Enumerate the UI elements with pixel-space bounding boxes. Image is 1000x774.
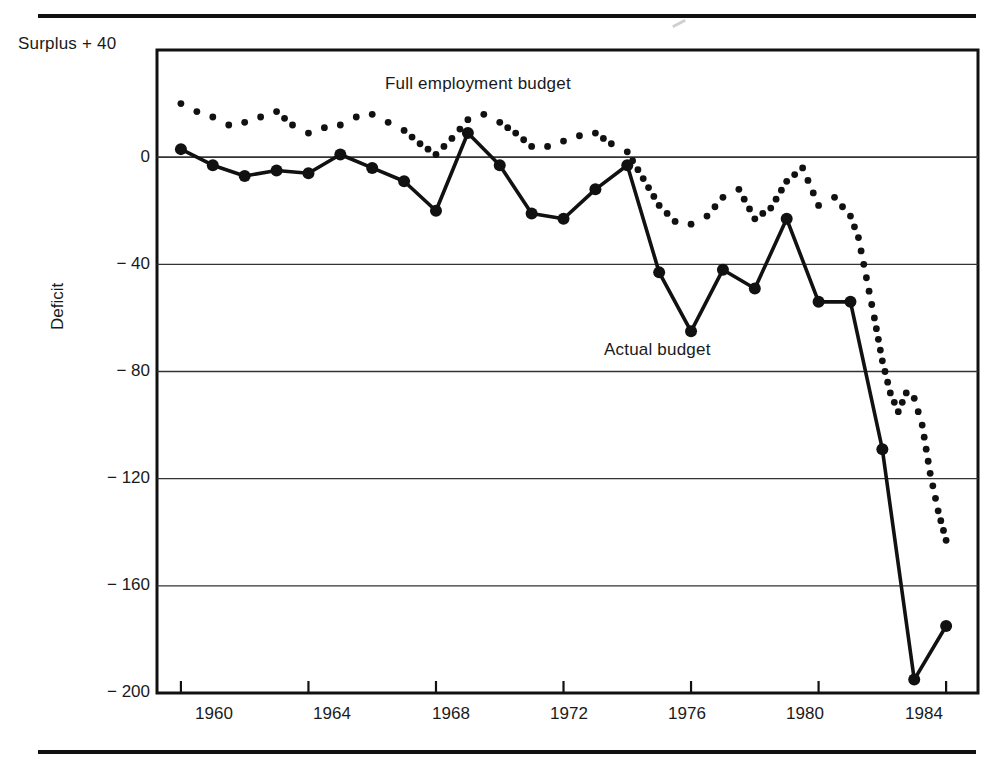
data-dot — [875, 336, 882, 343]
data-dot — [911, 395, 918, 402]
data-dot — [600, 135, 607, 142]
data-dot — [921, 434, 928, 441]
data-dot — [608, 140, 615, 147]
data-point-marker — [207, 159, 219, 171]
data-dot — [935, 507, 942, 514]
data-dot — [281, 115, 288, 122]
data-dot — [337, 122, 344, 129]
series-actual-budget-markers — [175, 127, 952, 686]
data-dot — [783, 178, 790, 185]
data-dot — [640, 175, 647, 182]
data-dot — [915, 408, 922, 415]
data-dot — [464, 116, 471, 123]
data-point-marker — [685, 325, 697, 337]
data-dot — [873, 325, 880, 332]
data-dot — [353, 114, 360, 121]
data-dot — [791, 171, 798, 178]
data-dot — [480, 111, 487, 118]
data-dot — [847, 213, 854, 220]
x-tick-marks — [181, 681, 946, 693]
data-dot — [504, 124, 511, 131]
data-dot — [810, 189, 817, 196]
data-dot — [704, 213, 711, 220]
data-dot — [289, 122, 296, 129]
data-dot — [273, 108, 280, 115]
data-dot — [735, 186, 742, 193]
data-dot — [773, 196, 780, 203]
data-point-marker — [302, 167, 314, 179]
data-dot — [927, 470, 934, 477]
data-dot — [624, 148, 631, 155]
data-dot — [831, 194, 838, 201]
data-point-marker — [940, 620, 952, 632]
data-dot — [860, 261, 867, 268]
data-dot — [650, 193, 657, 200]
data-dot — [369, 111, 376, 118]
data-dot — [882, 368, 889, 375]
data-dot — [799, 164, 806, 171]
data-point-marker — [366, 162, 378, 174]
data-dot — [751, 215, 758, 222]
data-point-marker — [558, 213, 570, 225]
data-dot — [884, 379, 891, 386]
data-dot — [512, 130, 519, 137]
data-dot — [899, 399, 906, 406]
data-dot — [712, 203, 719, 210]
data-dot — [871, 315, 878, 322]
data-dot — [903, 390, 910, 397]
data-dot — [891, 399, 898, 406]
data-dot — [225, 122, 232, 129]
data-point-marker — [239, 170, 251, 182]
data-dot — [688, 221, 695, 228]
data-dot — [544, 143, 551, 150]
data-dot — [241, 119, 248, 126]
data-dot — [879, 357, 886, 364]
data-point-marker — [589, 183, 601, 195]
data-dot — [929, 482, 936, 489]
data-point-marker — [398, 175, 410, 187]
data-dot — [851, 223, 858, 230]
data-point-marker — [653, 266, 665, 278]
data-dot — [868, 301, 875, 308]
data-point-marker — [876, 443, 888, 455]
data-dot — [863, 274, 870, 281]
chart-plot — [0, 0, 1000, 774]
data-dot — [746, 206, 753, 213]
data-dot — [520, 136, 527, 143]
data-point-marker — [813, 296, 825, 308]
data-dot — [720, 194, 727, 201]
data-dot — [305, 130, 312, 137]
data-dot — [576, 132, 583, 139]
data-dot — [815, 202, 822, 209]
data-dot — [767, 205, 774, 212]
data-dot — [257, 114, 264, 121]
data-dot — [943, 537, 950, 544]
data-dot — [645, 184, 652, 191]
data-dot — [759, 210, 766, 217]
data-dot — [178, 100, 185, 107]
data-dot — [321, 124, 328, 131]
data-dot — [401, 127, 408, 134]
data-dot — [496, 119, 503, 126]
data-point-marker — [526, 207, 538, 219]
data-dot — [664, 210, 671, 217]
data-point-marker — [621, 159, 633, 171]
data-dot — [940, 527, 947, 534]
data-point-marker — [462, 127, 474, 139]
data-dot — [919, 422, 926, 429]
data-dot — [932, 495, 939, 502]
data-point-marker — [334, 148, 346, 160]
data-dot — [385, 119, 392, 126]
data-point-marker — [781, 213, 793, 225]
data-point-marker — [494, 159, 506, 171]
data-dot — [855, 234, 862, 241]
series-full-employment-budget — [178, 100, 950, 544]
data-point-marker — [430, 205, 442, 217]
data-dot — [449, 135, 456, 142]
data-dot — [887, 390, 894, 397]
data-point-marker — [717, 264, 729, 276]
data-dot — [877, 347, 884, 354]
data-dot — [409, 134, 416, 141]
data-point-marker — [749, 282, 761, 294]
data-dot — [778, 187, 785, 194]
